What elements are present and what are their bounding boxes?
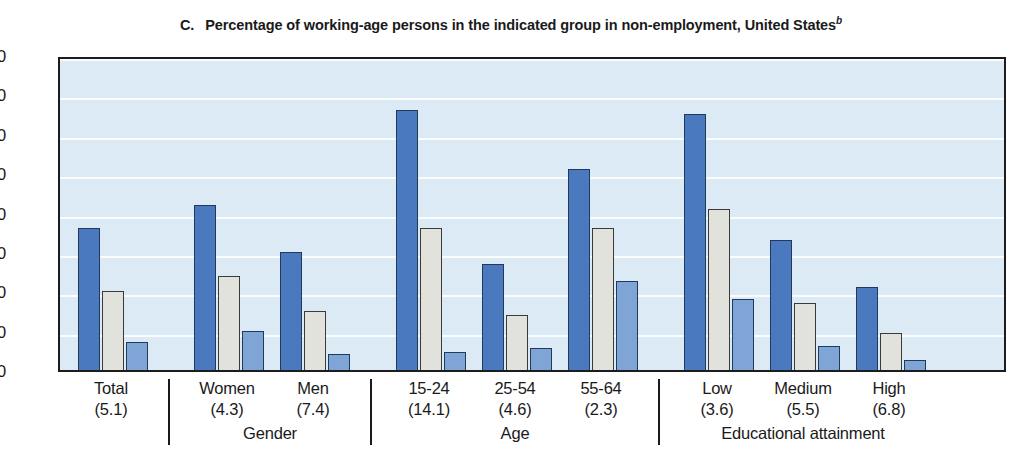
bar <box>856 287 878 370</box>
x-axis-group-label: Gender <box>130 424 410 443</box>
bar <box>708 209 730 370</box>
bar <box>568 169 590 370</box>
chart-page: C.Percentage of working-age persons in t… <box>0 0 1022 468</box>
bar <box>444 352 466 370</box>
bar <box>396 110 418 370</box>
bar <box>194 205 216 370</box>
group-separator <box>658 379 660 445</box>
y-axis-tick-label: 40 <box>0 205 6 225</box>
category-value: (6.8) <box>829 399 949 420</box>
bar <box>592 228 614 370</box>
bar <box>218 276 240 371</box>
bar <box>420 228 442 370</box>
category-value: (2.3) <box>541 399 661 420</box>
x-axis-category-label: High(6.8) <box>829 378 949 420</box>
category-value: (5.1) <box>51 399 171 420</box>
x-axis-group-label: Educational attainment <box>663 424 943 443</box>
bar <box>482 264 504 370</box>
y-axis-tick-label: 50 <box>0 165 6 185</box>
bar <box>616 281 638 370</box>
group-separator <box>168 379 170 445</box>
bar <box>794 303 816 370</box>
bar <box>530 348 552 370</box>
y-axis-tick-label: 60 <box>0 126 6 146</box>
group-separator <box>370 379 372 445</box>
bars-layer <box>60 59 1004 370</box>
y-axis-tick-label: 30 <box>0 244 6 264</box>
bar <box>328 354 350 370</box>
y-axis-tick-label: 80 <box>0 47 6 67</box>
bar <box>242 331 264 370</box>
bar <box>818 346 840 370</box>
y-axis-tick-label: 70 <box>0 86 6 106</box>
category-name: High <box>829 378 949 399</box>
bar <box>684 114 706 370</box>
category-name: Men <box>253 378 373 399</box>
x-axis-category-label: Total(5.1) <box>51 378 171 420</box>
bar <box>126 342 148 370</box>
category-value: (7.4) <box>253 399 373 420</box>
bar <box>280 252 302 370</box>
bar <box>732 299 754 370</box>
bar <box>506 315 528 370</box>
bar <box>880 333 902 370</box>
y-axis-tick-label: 10 <box>0 323 6 343</box>
x-axis-group-label: Age <box>375 424 655 443</box>
plot-area <box>58 57 1006 372</box>
bar <box>770 240 792 370</box>
bar <box>102 291 124 370</box>
y-axis-tick-label: 20 <box>0 283 6 303</box>
bar <box>904 360 926 370</box>
x-axis-category-label: 55-64(2.3) <box>541 378 661 420</box>
category-name: 55-64 <box>541 378 661 399</box>
bar <box>78 228 100 370</box>
x-axis-category-label: Men(7.4) <box>253 378 373 420</box>
bar <box>304 311 326 370</box>
category-name: Total <box>51 378 171 399</box>
x-axis-labels: Total(5.1)Women(4.3)Men(7.4)15-24(14.1)2… <box>58 376 1006 468</box>
y-axis-tick-label: 0 <box>0 362 6 382</box>
